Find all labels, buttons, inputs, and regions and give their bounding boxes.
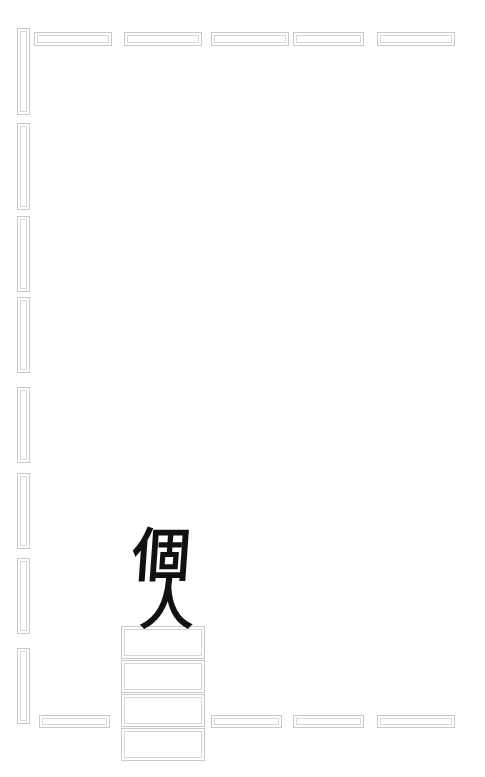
sidebar-item-6[interactable] [17,473,30,549]
sidebar-item-1[interactable] [17,28,30,115]
sidebar-item-6-label [20,476,27,546]
top-bar-item-4[interactable] [377,32,455,46]
sidebar-item-2[interactable] [17,123,30,210]
bottom-bar-item-2-label [214,718,279,725]
card-row-4[interactable] [121,728,205,761]
top-bar-item-1-label [127,35,199,43]
bottom-bar-item-1-label [42,718,107,725]
top-bar-item-3-label [296,35,361,43]
top-bar-item-4-label [380,35,452,43]
top-bar-item-2-label [214,35,286,43]
bottom-bar-item-4[interactable] [377,715,455,728]
bottom-bar-item-3-label [296,718,361,725]
top-bar-item-1[interactable] [124,32,202,46]
sidebar-item-4[interactable] [17,297,30,373]
card-row-2[interactable] [121,660,205,693]
top-bar-item-5[interactable] [34,32,112,46]
card-row-4-label [124,731,202,758]
sidebar-item-7[interactable] [17,558,30,634]
sidebar-item-3-label [20,219,27,289]
page-canvas: 個 人 [0,0,485,777]
sidebar-item-2-label [20,126,27,207]
bottom-bar-item-3[interactable] [293,715,364,728]
card-row-2-label [124,663,202,690]
calligraphy-glyph-1: 個 [130,528,218,585]
sidebar-item-8-label [20,651,27,721]
sidebar-item-5[interactable] [17,387,30,463]
card-row-1-label [124,629,202,656]
top-bar-item-3[interactable] [293,32,364,46]
bottom-bar-item-4-label [380,718,452,725]
card-row-3[interactable] [121,694,205,727]
top-bar-item-5-label [37,35,109,43]
calligraphy-glyph-2: 人 [138,579,218,632]
sidebar-item-4-label [20,300,27,370]
card-row-1[interactable] [121,626,205,659]
top-bar-item-2[interactable] [211,32,289,46]
sidebar-item-3[interactable] [17,216,30,292]
bottom-bar-item-2[interactable] [211,715,282,728]
sidebar-item-1-label [20,31,27,112]
bottom-bar-item-1[interactable] [39,715,110,728]
sidebar-item-8[interactable] [17,648,30,724]
sidebar-item-5-label [20,390,27,460]
sidebar-item-7-label [20,561,27,631]
card-row-3-label [124,697,202,724]
